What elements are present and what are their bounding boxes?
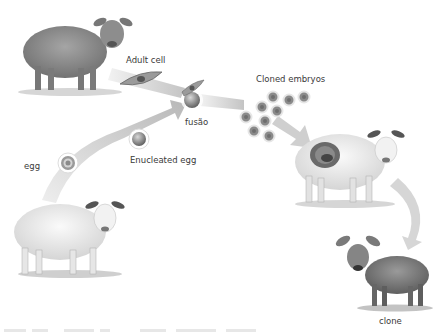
label-enucleated-egg: Enucleated egg [130, 155, 196, 165]
label-adult-cell: Adult cell [126, 55, 165, 65]
arrow-egg-to-fusion [42, 100, 186, 203]
cropped-caption-fragment [0, 324, 300, 333]
diagram-graphics [0, 0, 446, 333]
label-cloned-embryos: Cloned embryos [256, 74, 325, 84]
egg-donor-sheep-illustration [14, 200, 126, 278]
label-clone: clone [379, 316, 402, 326]
arrow-embryos-to-surrogate [272, 116, 312, 148]
arrow-fusion-to-embryos [200, 94, 244, 110]
enucleated-egg-illustration [129, 129, 149, 149]
label-egg: egg [24, 161, 40, 171]
arrow-surrogate-to-clone [390, 178, 422, 250]
fusion-cell-illustration [181, 80, 204, 111]
clone-lamb-illustration [334, 234, 433, 312]
egg-illustration [58, 153, 78, 173]
donor-sheep-illustration [18, 16, 134, 96]
cloning-diagram: Adult cell fusão Cloned embryos egg Enuc… [0, 0, 446, 333]
label-fusion: fusão [185, 117, 208, 127]
surrogate-sheep-illustration [295, 129, 406, 208]
